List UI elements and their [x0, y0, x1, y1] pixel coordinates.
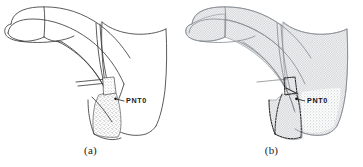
flare-top-edge	[102, 22, 166, 34]
pnt0-marker-b	[295, 97, 298, 100]
figure-panel-a: PNT0 (a)	[0, 0, 181, 167]
figure-panel-b: PNT0 (b)	[181, 0, 362, 167]
panel-a-geometry	[5, 7, 167, 140]
pnt0-marker	[114, 98, 117, 101]
upper-arm-rib-1b	[44, 37, 62, 42]
nose-cap-inner	[8, 33, 23, 41]
upper-arm-rib-1	[44, 7, 45, 37]
panel-b-caption: (b)	[181, 144, 362, 156]
upper-arm-top-edge	[11, 7, 130, 58]
mesh-lower-skirt	[269, 94, 302, 140]
panel-a-caption: (a)	[0, 144, 181, 156]
figure-root: PNT0 (a)	[0, 0, 363, 167]
upper-arm-lower-edge	[8, 19, 124, 84]
panel-b-mesh-surfaces	[186, 7, 348, 140]
panel-a-drawing: PNT0	[0, 0, 181, 150]
pnt0-label: PNT0	[126, 96, 147, 105]
flare-right-edge	[156, 29, 167, 126]
mesh-nose-cap	[186, 14, 225, 41]
pnt0-tag-box	[103, 77, 116, 95]
pnt0-label-b: PNT0	[307, 96, 328, 105]
panel-b-drawing: PNT0	[181, 0, 362, 150]
